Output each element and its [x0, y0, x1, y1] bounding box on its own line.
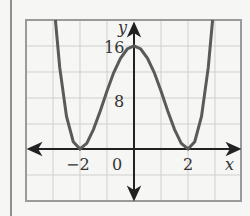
x-axis-label: x [225, 155, 234, 174]
x-tick-0: 0 [112, 155, 122, 174]
y-tick-16: 16 [104, 38, 124, 57]
x-tick-neg2: −2 [66, 155, 90, 174]
y-tick-8: 8 [114, 92, 124, 111]
x-tick-2: 2 [183, 155, 193, 174]
y-axis-label: y [117, 18, 128, 37]
y-axis [129, 24, 139, 199]
function-graph: y 16 8 x −2 0 2 [0, 0, 250, 216]
